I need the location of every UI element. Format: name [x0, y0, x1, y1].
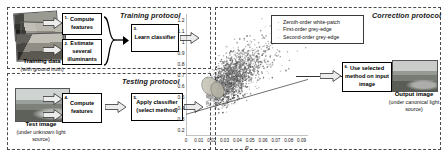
- x-tick-label: 0.02: [207, 138, 216, 143]
- box-apply-classifier[interactable]: 5. Apply classifier (select method): [131, 93, 183, 121]
- x-tick-label: 0.01: [194, 138, 203, 143]
- legend-marker-icon: ·: [275, 19, 282, 25]
- box-label-apply-classifier: Apply classifier (select method): [132, 99, 182, 115]
- x-axis-label: p: [245, 144, 248, 150]
- x-tick-label: 0: [185, 138, 188, 143]
- caption-output-image-title: Output image: [382, 91, 446, 99]
- x-tick-label: 0.06: [259, 138, 268, 143]
- legend-item: ·First-order grey-edge: [275, 26, 360, 34]
- legend-item-label: Second-order grey-edge: [283, 34, 339, 40]
- box-label-learn-classifier: Learn classifier: [132, 34, 177, 42]
- box-label-estimate-several-illuminants: Estimate several illuminants: [63, 40, 101, 64]
- caption-output-image: Output image (under canonical light sour…: [382, 91, 446, 113]
- box-compute-features-training[interactable]: 1. Compute features: [62, 13, 102, 35]
- y-tick-label: 0.8: [178, 61, 185, 67]
- box-use-selected-method[interactable]: 6. Use selected method on input image: [342, 62, 392, 92]
- box-learn-classifier[interactable]: 3. Learn classifier: [131, 24, 179, 52]
- box-number-2: 2.: [65, 41, 69, 46]
- panel-title-training: Training protocol: [120, 11, 181, 20]
- y-tick-label: 0.2: [178, 127, 185, 133]
- panel-title-correction: Correction protocol: [372, 11, 441, 20]
- box-number-5: 5.: [134, 95, 138, 100]
- arrow-test-to-compute-features: [43, 93, 63, 105]
- arrow-test-to-compute-features-2: [43, 109, 63, 121]
- legend-item: ·Second-order grey-edge: [275, 33, 360, 41]
- y-tick-label: 1.2: [178, 17, 185, 23]
- box-number-4: 4.: [65, 95, 69, 100]
- x-tick-label: 0.03: [220, 138, 229, 143]
- chart-legend: ·Zeroth-order white-patch·First-order gr…: [271, 15, 364, 44]
- y-tick-label: 0.7: [178, 72, 185, 78]
- legend-item-label: First-order grey-edge: [283, 26, 332, 32]
- y-tick-label: 0.9: [178, 50, 185, 56]
- figure-root: Training protocol Testing protocol Corre…: [0, 0, 448, 157]
- box-compute-features-testing[interactable]: 4. Compute features: [62, 93, 102, 123]
- legend-marker-icon: ·: [275, 34, 282, 40]
- y-tick-label: 1: [182, 39, 185, 45]
- x-tick-label: 0.07: [271, 138, 280, 143]
- box-number-6: 6.: [345, 64, 349, 69]
- caption-training-data-sub: (with ground truth): [6, 66, 78, 73]
- box-number-1: 1.: [65, 15, 69, 20]
- x-tick-label: 0.05: [246, 138, 255, 143]
- caption-test-image: Test image (under unknown light source): [8, 121, 74, 143]
- output-image-thumbnail: [392, 60, 438, 92]
- box-label-compute-features-training: Compute features: [63, 16, 101, 32]
- legend-item: ·Zeroth-order white-patch: [275, 18, 360, 26]
- arrow-training-to-estimate-illuminants: [43, 44, 63, 56]
- arrow-compute-to-apply-classifier: [105, 101, 127, 113]
- y-tick-label: 0.3: [178, 116, 185, 122]
- x-tick-label: 0.08: [284, 138, 293, 143]
- caption-test-image-sub: (under unknown light source): [8, 129, 74, 143]
- panel-title-testing: Testing protocol: [122, 77, 180, 86]
- caption-output-image-sub: (under canonical light source): [382, 99, 446, 113]
- arrow-plot-to-use-method: [320, 70, 342, 82]
- y-tick-label: 1.1: [178, 28, 185, 34]
- y-tick-label: 0.6: [178, 83, 185, 89]
- box-label-use-selected-method: Use selected method on input image: [343, 65, 391, 89]
- y-tick-label: 0.5: [178, 94, 185, 100]
- box-label-compute-features-testing: Compute features: [63, 100, 101, 116]
- arrow-training-to-compute-features: [43, 17, 63, 29]
- y-tick-label: 0.4: [178, 105, 185, 111]
- box-number-3: 3.: [134, 26, 138, 31]
- box-estimate-several-illuminants[interactable]: 2. Estimate several illuminants: [62, 39, 102, 65]
- x-tick-label: 0.04: [233, 138, 242, 143]
- legend-item-label: Zeroth-order white-patch: [283, 19, 340, 25]
- legend-marker-icon: ·: [275, 26, 282, 32]
- brace-connector: [103, 16, 129, 66]
- x-tick-label: 0.09: [297, 138, 306, 143]
